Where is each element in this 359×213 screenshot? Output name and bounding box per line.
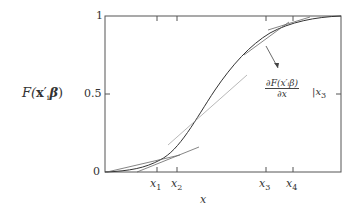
ytick-label-0.5: 0.5 [84,87,102,100]
x-axis-label: x [200,193,206,206]
ytick-label-0: 0 [93,165,100,178]
xtick-label-x1: x1 [150,177,161,192]
y-label-beta: β [49,85,58,100]
xtick-label-x2: x2 [171,177,182,192]
ytick-label-1: 1 [96,9,103,22]
xtick-label-x4: x4 [286,177,297,192]
y-label-F: F( [22,85,36,100]
tangent-mid [168,75,247,145]
y-label-close: ) [58,85,63,100]
derivative-eval: |x3 [312,86,326,100]
derivative-annotation: ∂F(x′ᵢβ) ∂x [265,78,299,99]
arrow-head-icon [274,63,279,68]
y-axis-label: F(x′iβ) [22,85,63,102]
derivative-denominator: ∂x [265,89,299,99]
tangent-x2 [137,147,199,172]
plot-frame [105,16,341,172]
cdf-curve [105,16,341,172]
tangent-x4 [268,17,310,30]
y-label-x: x [36,85,44,100]
tangent-x3 [244,22,289,55]
derivative-numerator: ∂F(x′ᵢβ) [265,78,299,89]
xtick-label-x3: x3 [259,177,270,192]
